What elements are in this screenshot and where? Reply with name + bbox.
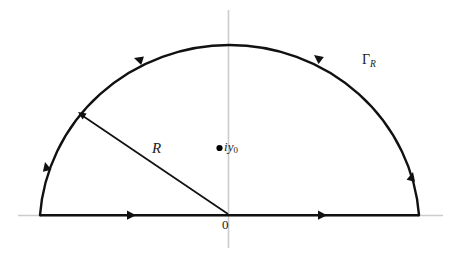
contour-arc-label: ΓR [362,53,376,67]
pole-point-label: iy0 [224,140,238,153]
real-axis-left-arrow-icon [127,211,136,220]
contour-diagram-svg [0,0,452,253]
radius-label: R [152,141,161,156]
arc-right-lower-arrow-icon [407,171,418,182]
real-axis-right-arrow-icon [318,211,327,220]
gamma-subscript: R [370,59,376,69]
figure-canvas: ΓR R iy0 0 [0,0,452,253]
origin-label: 0 [222,218,229,231]
pole-point-marker [216,145,222,151]
gamma-symbol: Γ [362,52,370,67]
contour-semicircular-arc [40,45,419,215]
arc-left-upper-arrow-icon [133,54,144,65]
arc-right-upper-arrow-icon [311,51,323,63]
radius-line [80,114,228,214]
pole-subscript: 0 [233,145,237,155]
